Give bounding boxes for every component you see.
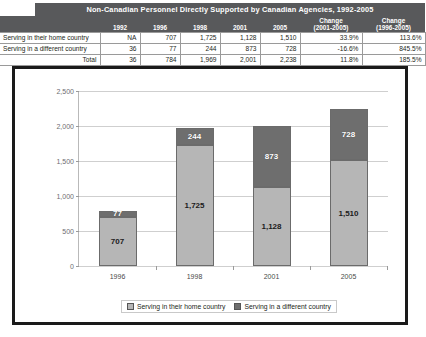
total-change-1996-2005: 185.5% (362, 55, 425, 66)
chart-bar[interactable]: 77707 (99, 211, 137, 266)
bar-value-label: 1,510 (338, 209, 358, 218)
cell-diff-1992: 36 (100, 44, 140, 55)
header-1998: 1998 (180, 16, 220, 33)
x-axis-tick-mark (387, 266, 388, 270)
header-2001: 2001 (220, 16, 260, 33)
bar-value-label: 873 (265, 152, 278, 161)
personnel-table: 1992 1996 1998 2001 2005 Change (2001-20… (0, 16, 426, 66)
bar-segment[interactable]: 244 (176, 128, 214, 145)
bar-segment[interactable]: 1,725 (176, 145, 214, 266)
cell-home-change-2001-2005: 33.9% (300, 33, 362, 44)
total-2001: 2,001 (220, 55, 260, 66)
legend-swatch-icon (234, 303, 241, 310)
header-row-label (0, 16, 100, 33)
cell-diff-2001: 873 (220, 44, 260, 55)
cell-home-2001: 1,128 (220, 33, 260, 44)
x-axis-tick-mark (156, 266, 157, 270)
chart-panel: 05001,0001,5002,0002,5007770719962441,72… (12, 66, 408, 325)
chart-bar[interactable]: 2441,725 (176, 128, 214, 266)
chart-bar[interactable]: 7281,510 (330, 109, 368, 266)
table-header-row: 1992 1996 1998 2001 2005 Change (2001-20… (0, 16, 425, 33)
y-axis-tick-mark (76, 161, 79, 162)
total-1998: 1,969 (180, 55, 220, 66)
cell-diff-2005: 728 (260, 44, 300, 55)
total-1992: 36 (100, 55, 140, 66)
legend-swatch-icon (127, 303, 134, 310)
x-axis-tick-label: 1998 (165, 273, 225, 280)
header-change-1996-2005: Change (1996-2005) (362, 16, 425, 33)
y-axis-tick-label: 1,000 (56, 193, 74, 200)
chart-legend: Serving in their home country Serving in… (121, 300, 337, 313)
cell-diff-1998: 244 (180, 44, 220, 55)
bar-value-label: 1,725 (184, 201, 204, 210)
y-axis-tick-label: 500 (62, 228, 74, 235)
x-axis-tick-mark (233, 266, 234, 270)
total-2005: 2,238 (260, 55, 300, 66)
x-axis-tick-label: 2001 (242, 273, 302, 280)
cell-diff-1996: 77 (140, 44, 180, 55)
bar-value-label: 728 (342, 130, 355, 139)
legend-item-different-country: Serving in a different country (234, 303, 330, 310)
x-axis-tick-mark (310, 266, 311, 270)
bar-value-label: 707 (111, 237, 124, 246)
cell-home-1996: 707 (140, 33, 180, 44)
header-change2-line2: (1996-2005) (362, 24, 425, 31)
y-axis-tick-mark (76, 266, 79, 267)
table-row: Serving in their home country NA 707 1,7… (0, 33, 425, 44)
header-1992: 1992 (100, 16, 140, 33)
chart-bar[interactable]: 8731,128 (253, 126, 291, 266)
bar-value-label: 244 (188, 132, 201, 141)
chart-plot-area: 05001,0001,5002,0002,5007770719962441,72… (78, 91, 387, 267)
header-2005: 2005 (260, 16, 300, 33)
y-axis-tick-label: 1,500 (56, 158, 74, 165)
bar-segment[interactable]: 873 (253, 126, 291, 187)
y-axis-tick-label: 2,500 (56, 88, 74, 95)
data-table-panel: Non-Canadian Personnel Directly Supporte… (0, 0, 425, 64)
bar-segment[interactable]: 707 (99, 217, 137, 266)
x-axis-tick-label: 2005 (319, 273, 379, 280)
cell-home-2005: 1,510 (260, 33, 300, 44)
table-row: Serving in a different country 36 77 244… (0, 44, 425, 55)
row-label-different-country: Serving in a different country (0, 44, 100, 55)
bar-segment[interactable]: 1,128 (253, 187, 291, 266)
header-change-line2: (2001-2005) (300, 24, 362, 31)
y-axis-tick-mark (76, 231, 79, 232)
cell-home-1992: NA (100, 33, 140, 44)
cell-home-1998: 1,725 (180, 33, 220, 44)
header-1996: 1996 (140, 16, 180, 33)
y-axis-tick-label: 2,000 (56, 123, 74, 130)
cell-diff-change-1996-2005: 845.5% (362, 44, 425, 55)
bar-segment[interactable]: 1,510 (330, 160, 368, 266)
y-axis-tick-mark (76, 91, 79, 92)
grid-line (79, 91, 388, 92)
legend-label: Serving in their home country (137, 303, 225, 310)
y-axis-tick-label: 0 (70, 263, 74, 270)
y-axis-tick-mark (76, 126, 79, 127)
total-change-2001-2005: 11.8% (300, 55, 362, 66)
total-1996: 784 (140, 55, 180, 66)
legend-item-home-country: Serving in their home country (127, 303, 225, 310)
y-axis-tick-mark (76, 196, 79, 197)
table-total-row: Total 36 784 1,969 2,001 2,238 11.8% 185… (0, 55, 425, 66)
x-axis-tick-label: 1996 (88, 273, 148, 280)
row-label-home-country: Serving in their home country (0, 33, 100, 44)
legend-label: Serving in a different country (244, 303, 330, 310)
total-label: Total (0, 55, 100, 66)
header-change2-line1: Change (362, 17, 425, 24)
table-title: Non-Canadian Personnel Directly Supporte… (35, 3, 425, 16)
cell-diff-change-2001-2005: -16.6% (300, 44, 362, 55)
bar-value-label: 1,128 (261, 222, 281, 231)
header-change-2001-2005: Change (2001-2005) (300, 16, 362, 33)
bar-segment[interactable]: 728 (330, 109, 368, 160)
header-change-line1: Change (300, 17, 362, 24)
cell-home-change-1996-2005: 113.6% (362, 33, 425, 44)
